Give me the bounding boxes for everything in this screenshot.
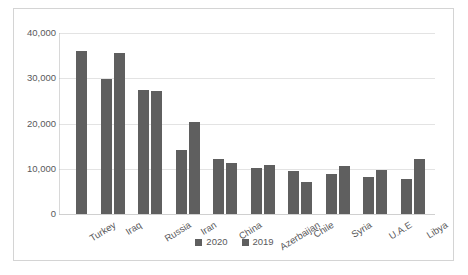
plot-area: [60, 33, 435, 214]
chart-container: 010,00020,00030,00040,000 TurkeyIraqRuss…: [13, 8, 454, 261]
y-axis-tick-label: 20,000: [14, 119, 56, 129]
y-axis-tick-label: 10,000: [14, 164, 56, 174]
bar-group: [398, 33, 436, 214]
legend-item[interactable]: 2020: [195, 237, 227, 247]
y-axis-tick-label: 40,000: [14, 28, 56, 38]
bar: [414, 159, 425, 214]
bar-group: [248, 33, 286, 214]
y-axis-tick-label: 30,000: [14, 73, 56, 83]
bar: [213, 159, 224, 214]
y-axis-tick-labels: 010,00020,00030,00040,000: [14, 33, 56, 214]
bar-group: [135, 33, 173, 214]
legend-label: 2019: [253, 237, 274, 247]
bar-group: [60, 33, 98, 214]
bar: [339, 166, 350, 214]
bar-group: [323, 33, 361, 214]
legend-swatch-icon: [195, 239, 202, 246]
bar: [101, 79, 112, 214]
bar-group: [285, 33, 323, 214]
legend-item[interactable]: 2019: [242, 237, 274, 247]
bar: [251, 168, 262, 214]
bar-group: [173, 33, 211, 214]
bar: [264, 165, 275, 214]
chart-legend: 20202019: [14, 237, 455, 247]
bar: [176, 150, 187, 214]
bar: [76, 51, 87, 214]
bar: [401, 179, 412, 214]
x-axis-label: Iran: [198, 219, 218, 237]
bar-group: [210, 33, 248, 214]
bar-group: [98, 33, 136, 214]
x-axis-category-labels: TurkeyIraqRussiaIranChinaAzerbaijanChile…: [60, 215, 435, 257]
bar: [288, 171, 299, 214]
bar: [151, 91, 162, 214]
bar: [138, 90, 149, 214]
x-axis-label: Iraq: [123, 219, 143, 237]
bar: [326, 174, 337, 214]
y-axis-tick-label: 0: [14, 209, 56, 219]
bar: [226, 163, 237, 214]
legend-swatch-icon: [242, 239, 249, 246]
legend-label: 2020: [206, 237, 227, 247]
bar: [114, 53, 125, 214]
bar: [189, 122, 200, 214]
bar: [301, 182, 312, 214]
bar: [363, 177, 374, 214]
bar: [376, 170, 387, 214]
bar-group: [360, 33, 398, 214]
